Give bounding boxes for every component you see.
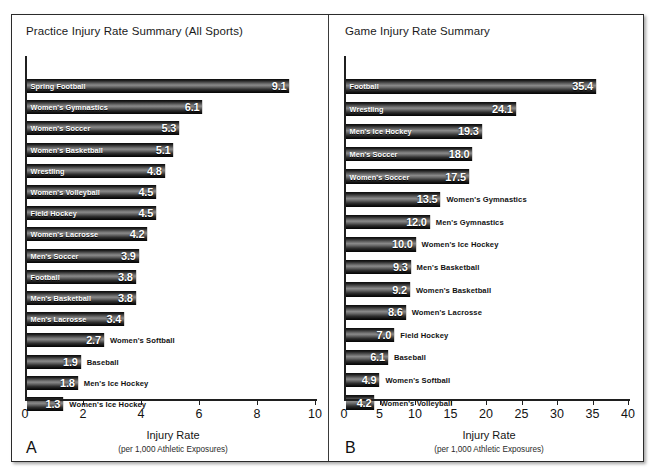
bar-value-label: 3.8 [118, 292, 133, 304]
bar-value-label: 10.0 [392, 238, 413, 250]
bar-value-label: 18.0 [449, 148, 470, 160]
bar-row: Spring Football9.1 [27, 79, 316, 93]
x-axis-tick-label: 35 [586, 407, 600, 421]
x-axis-tick [557, 399, 558, 405]
bar-value-label: 1.8 [60, 377, 75, 389]
panel-b-x-axis-subtitle: (per 1,000 Athletic Exposures) [434, 445, 544, 454]
bar-value-label: 4.2 [130, 228, 145, 240]
bar-category-label: Men's Ice Hockey [350, 127, 412, 136]
x-axis-tick-label: 8 [254, 407, 261, 421]
x-axis-tick [522, 399, 523, 405]
bar-row: Football35.4 [346, 79, 629, 94]
bar-row: Men's Soccer18.0 [346, 147, 629, 162]
bar-row: 1.8Men's Ice Hockey [27, 376, 316, 390]
bar-category-label: Women's Basketball [31, 145, 103, 154]
bar-category-label: Men's Basketball [31, 294, 92, 303]
panel-b-plot-area: Football35.4Wrestling24.1Men's Ice Hocke… [344, 56, 629, 399]
bar-category-label: Women's Ice Hockey [422, 240, 499, 249]
bar-category-label: Football [31, 272, 60, 281]
bar-value-label: 3.8 [118, 271, 133, 283]
bar-value-label: 4.5 [138, 186, 153, 198]
panel-a-bar-group: Spring Football9.1Women's Gymnastics6.1W… [27, 56, 316, 399]
bar-row: Wrestling4.8 [27, 164, 316, 178]
bar-category-label: Men's Gymnastics [436, 217, 504, 226]
bar-row: 1.9Baseball [27, 355, 316, 369]
bar-category-label: Field Hockey [31, 209, 77, 218]
bar-row: 13.5Women's Gymnastics [346, 192, 629, 207]
bar-category-label: Women's Gymnastics [31, 103, 108, 112]
bar-category-label: Women's Basketball [416, 285, 491, 294]
bar-category-label: Field Hockey [400, 330, 448, 339]
bar-value-label: 4.9 [362, 374, 377, 386]
bar-row: Women's Soccer17.5 [346, 169, 629, 184]
bar-row: 9.2Women's Basketball [346, 282, 629, 297]
bar-value-label: 5.1 [156, 144, 171, 156]
bar-category-label: Wrestling [31, 166, 65, 175]
bar-row: 6.1Baseball [346, 350, 629, 365]
bar-category-label: Women's Soccer [31, 124, 91, 133]
x-axis-tick [593, 399, 594, 405]
x-axis-tick-label: 0 [341, 407, 348, 421]
x-axis-tick [315, 399, 316, 405]
bar-row: Women's Lacrosse4.2 [27, 227, 316, 241]
bar-value-label: 2.7 [86, 334, 101, 346]
bar-value-label: 8.6 [388, 306, 403, 318]
bar-category-label: Men's Lacrosse [31, 315, 87, 324]
bar-value-label: 6.1 [370, 351, 385, 363]
panel-a-x-axis-subtitle: (per 1,000 Athletic Exposures) [118, 445, 228, 454]
bar-category-label: Men's Basketball [417, 263, 480, 272]
bar-value-label: 12.0 [406, 216, 427, 228]
x-axis-tick-label: 25 [515, 407, 529, 421]
bar-category-label: Spring Football [31, 82, 86, 91]
bar-row: 2.7Women's Softball [27, 333, 316, 347]
bar-value-label: 5.3 [162, 122, 177, 134]
bar-value-label: 19.3 [458, 125, 479, 137]
bar-category-label: Baseball [87, 357, 119, 366]
x-axis-tick-label: 4 [138, 407, 145, 421]
bar-value-label: 24.1 [492, 103, 513, 115]
x-axis-tick [199, 399, 200, 405]
bar-value-label: 1.9 [63, 356, 78, 368]
bar-row: 7.0Field Hockey [346, 328, 629, 343]
bar-value-label: 13.5 [417, 193, 438, 205]
bar-row: Wrestling24.1 [346, 102, 629, 117]
bar-value-label: 4.5 [138, 207, 153, 219]
bar-row: 9.3Men's Basketball [346, 260, 629, 275]
bar-category-label: Men's Soccer [31, 251, 79, 260]
x-axis-tick-label: 2 [80, 407, 87, 421]
bar-row: Men's Basketball3.8 [27, 291, 316, 305]
panel-b-x-axis-title: Injury Rate [462, 429, 515, 441]
bar-row: Football3.8 [27, 270, 316, 284]
bar-category-label: Women's Volleyball [31, 188, 100, 197]
bar-row: Men's Soccer3.9 [27, 249, 316, 263]
bar-value-label: 3.9 [121, 250, 136, 262]
bar-value-label: 35.4 [572, 80, 593, 92]
bar-row: Women's Basketball5.1 [27, 143, 316, 157]
bar-value-label: 7.0 [377, 329, 392, 341]
x-axis-tick-label: 0 [22, 407, 29, 421]
bar-row: 8.6Women's Lacrosse [346, 305, 629, 320]
figure-container: Practice Injury Rate Summary (All Sports… [11, 14, 644, 462]
bar-value-label: 4.8 [147, 165, 162, 177]
bar-category-label: Baseball [394, 353, 426, 362]
panel-a-letter: A [26, 439, 37, 457]
bar-category-label: Women's Ice Hockey [69, 400, 146, 409]
bar-value-label: 17.5 [445, 171, 466, 183]
bar-category-label: Women's Volleyball [380, 398, 452, 407]
panel-a-x-axis-title: Injury Rate [146, 429, 199, 441]
bar-category-label: Wrestling [350, 104, 384, 113]
bar-row: Women's Volleyball4.5 [27, 185, 316, 199]
panel-b-title: Game Injury Rate Summary [345, 25, 490, 37]
bar-value-label: 9.1 [272, 80, 287, 92]
bar-row: Women's Gymnastics6.1 [27, 100, 316, 114]
bar-value-label: 4.2 [357, 397, 372, 409]
bar-category-label: Men's Soccer [350, 150, 398, 159]
panel-b-bar-group: Football35.4Wrestling24.1Men's Ice Hocke… [346, 56, 629, 399]
bar-value-label: 3.4 [106, 313, 121, 325]
x-axis-tick [628, 399, 629, 405]
bar-row: 12.0Men's Gymnastics [346, 215, 629, 230]
panel-a-practice-injury: Practice Injury Rate Summary (All Sports… [12, 15, 328, 461]
x-axis-tick-label: 6 [196, 407, 203, 421]
panel-a-plot-area: Spring Football9.1Women's Gymnastics6.1W… [25, 56, 316, 399]
bar-category-label: Women's Softball [110, 336, 175, 345]
